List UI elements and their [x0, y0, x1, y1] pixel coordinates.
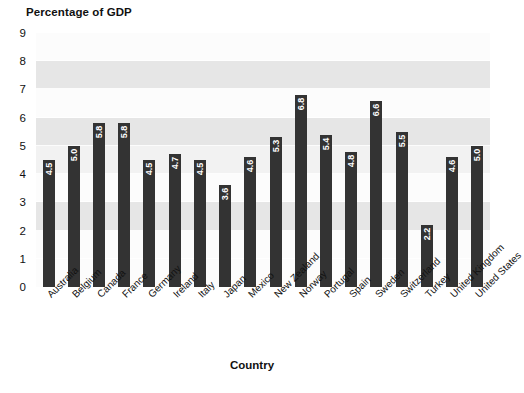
bar-value-label: 5.3 — [270, 140, 282, 153]
bar-value-label: 5.5 — [396, 135, 408, 148]
bar-value-label: 4.5 — [194, 163, 206, 176]
bar-value-label: 6.6 — [370, 103, 382, 116]
bar-value-label: 4.5 — [143, 163, 155, 176]
y-axis-tick-label: 0 — [20, 281, 26, 293]
bar-slot: 5.0 — [61, 33, 86, 287]
bar-value-label: 5.8 — [93, 126, 105, 139]
bar[interactable]: 6.6 — [370, 101, 382, 287]
bar[interactable]: 5.8 — [118, 123, 130, 287]
bar-value-label: 5.8 — [118, 126, 130, 139]
bar[interactable]: 4.5 — [43, 160, 55, 287]
bar-slot: 6.6 — [364, 33, 389, 287]
bar[interactable]: 5.3 — [270, 137, 282, 287]
bar-value-label: 4.6 — [446, 160, 458, 173]
bar-slot: 4.8 — [339, 33, 364, 287]
bar-slot: 5.8 — [86, 33, 111, 287]
y-axis-tick-label: 9 — [20, 27, 26, 39]
bar-value-label: 6.8 — [295, 98, 307, 111]
bar[interactable]: 4.6 — [244, 157, 256, 287]
bar-slot: 5.5 — [389, 33, 414, 287]
bar-value-label: 4.6 — [244, 160, 256, 173]
y-axis-tick-label: 8 — [20, 55, 26, 67]
y-axis-tick-label: 7 — [20, 83, 26, 95]
y-axis-tick-label: 3 — [20, 196, 26, 208]
bar-value-label: 4.8 — [345, 154, 357, 167]
bar[interactable]: 5.5 — [396, 132, 408, 287]
plot-area: 4.55.05.85.84.54.74.53.64.65.36.85.44.86… — [36, 33, 490, 287]
bar-slot: 3.6 — [213, 33, 238, 287]
bar-value-label: 4.7 — [169, 157, 181, 170]
bar-slot: 4.6 — [238, 33, 263, 287]
bar-slot: 4.7 — [162, 33, 187, 287]
bar[interactable]: 4.5 — [194, 160, 206, 287]
bar-slot: 4.5 — [36, 33, 61, 287]
bar-value-label: 5.0 — [68, 149, 80, 162]
bar-value-label: 3.6 — [219, 188, 231, 201]
y-axis-tick-label: 5 — [20, 140, 26, 152]
bar-slot: 2.2 — [414, 33, 439, 287]
x-axis-title: Country — [0, 359, 504, 371]
bar-slot: 4.5 — [137, 33, 162, 287]
bar-slot: 4.5 — [187, 33, 212, 287]
bar[interactable]: 3.6 — [219, 185, 231, 287]
bar-value-label: 4.5 — [43, 163, 55, 176]
bar-slot: 5.0 — [465, 33, 490, 287]
bar-slot: 6.8 — [288, 33, 313, 287]
y-axis-tick-label: 2 — [20, 225, 26, 237]
bar-value-label: 5.4 — [320, 137, 332, 150]
y-axis-tick-label: 1 — [20, 253, 26, 265]
y-axis-tick-label: 6 — [20, 112, 26, 124]
bar-slot: 4.6 — [440, 33, 465, 287]
bar-slot: 5.3 — [263, 33, 288, 287]
bar-slot: 5.8 — [112, 33, 137, 287]
bar[interactable]: 5.8 — [93, 123, 105, 287]
bar[interactable]: 4.5 — [143, 160, 155, 287]
bar-slot: 5.4 — [313, 33, 338, 287]
bar[interactable]: 5.4 — [320, 135, 332, 287]
bar[interactable]: 4.6 — [446, 157, 458, 287]
y-axis-ticks: 0123456789 — [0, 33, 32, 287]
bar-value-label: 2.2 — [421, 228, 433, 241]
x-axis-ticks: AustraliaBelgiumCanadaFranceGermanyIrela… — [36, 289, 490, 361]
bar-series: 4.55.05.85.84.54.74.53.64.65.36.85.44.86… — [36, 33, 490, 287]
bar-value-label: 5.0 — [471, 149, 483, 162]
y-axis-title: Percentage of GDP — [26, 6, 132, 18]
y-axis-tick-label: 4 — [20, 168, 26, 180]
